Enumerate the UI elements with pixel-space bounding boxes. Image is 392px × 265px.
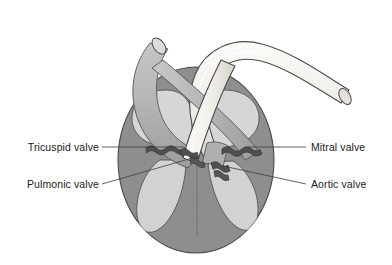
label-mitral-valve: Mitral valve xyxy=(311,141,365,153)
figure-container: Tricuspid valve Pulmonic valve Mitral va… xyxy=(0,0,392,265)
label-aortic-valve: Aortic valve xyxy=(311,178,367,190)
label-pulmonic-valve: Pulmonic valve xyxy=(27,178,99,190)
heart-valves-diagram: Tricuspid valve Pulmonic valve Mitral va… xyxy=(0,0,392,265)
label-tricuspid-valve: Tricuspid valve xyxy=(28,141,99,153)
